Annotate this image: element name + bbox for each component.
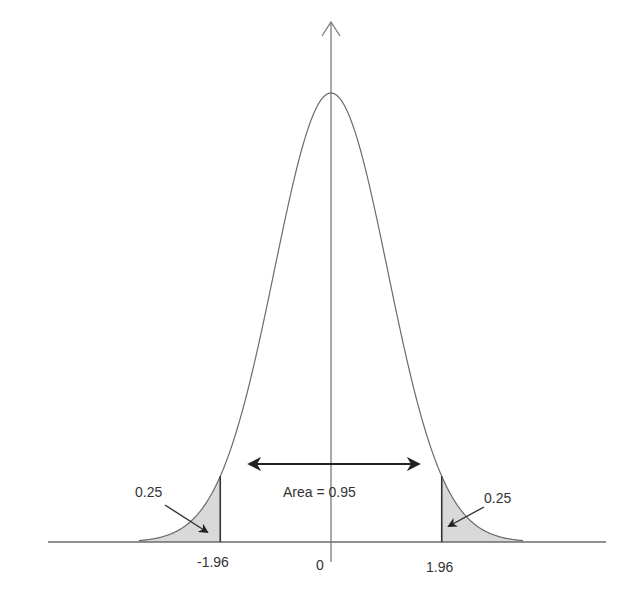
- central-area-label: Area = 0.95: [283, 484, 356, 500]
- right-tail-shaded-region: [442, 476, 523, 542]
- x-tick-zero: 0: [316, 557, 324, 573]
- right-tail-label: 0.25: [484, 490, 511, 506]
- normal-distribution-chart: 0.25 0.25 Area = 0.95 -1.96 0 1.96: [0, 0, 635, 599]
- left-tail-label: 0.25: [135, 484, 162, 500]
- x-tick-pos-1-96: 1.96: [426, 559, 453, 575]
- x-tick-neg-1-96: -1.96: [197, 554, 229, 570]
